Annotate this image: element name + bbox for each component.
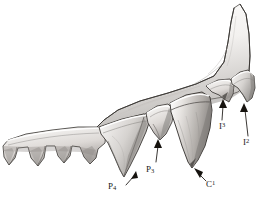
label-i2-index: 2 (246, 137, 249, 144)
label-p4-index: 4 (113, 184, 116, 191)
arrow-p4 (126, 171, 138, 185)
label-c1-index: 1 (212, 179, 215, 186)
label-c1: C1 (206, 180, 215, 189)
arrow-i2 (240, 103, 248, 136)
arrow-c1 (194, 168, 206, 181)
label-i3-index: 3 (222, 121, 225, 128)
tooth-canine (170, 92, 212, 168)
tooth-illustration-figure: P4 P3 C1 I3 I2 (0, 0, 263, 204)
label-i3: I3 (219, 122, 225, 131)
molar-series-left (3, 127, 106, 166)
arrow-i3 (219, 99, 227, 120)
jaw-drawing (0, 0, 263, 204)
label-i2: I2 (243, 138, 249, 147)
label-p3-index: 3 (151, 167, 154, 174)
label-p4: P4 (108, 182, 116, 192)
arrow-p3 (154, 139, 162, 162)
label-p3: P3 (146, 165, 154, 175)
